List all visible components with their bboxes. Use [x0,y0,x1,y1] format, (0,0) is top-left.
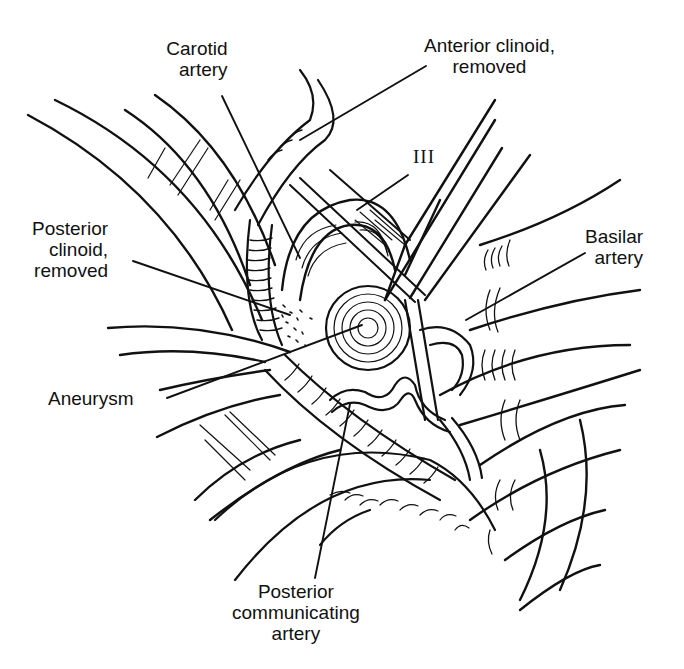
label-anterior-clinoid: Anterior clinoid, removed [424,35,555,77]
surgical-anatomy-drawing [0,0,684,669]
label-oculomotor-nerve: III [413,146,435,167]
basilar-line2: artery [585,247,643,268]
retractor-blades [385,100,530,300]
pcom-line1: Posterior [232,581,360,602]
basilar-line1: Basilar [585,226,643,247]
label-posterior-clinoid: Posterior clinoid, removed [32,218,108,281]
lower-vessel-ribbing [285,364,438,483]
anterior-clinoid-line1: Anterior clinoid, [424,35,555,56]
posterior-clinoid-stipple [282,305,312,346]
carotid-ribbing [248,130,302,331]
basilar-branches [420,327,482,480]
oculomotor-text: III [413,146,435,167]
aneurysm-dome [326,286,410,370]
brain-retraction-arcs-left [28,95,340,520]
posterior-clinoid-line2: clinoid, [32,239,108,260]
aneurysm-rings [334,294,402,362]
pcom-line3: artery [232,623,360,644]
carotid-line1: Carotid [152,38,228,59]
anterior-clinoid-line2: removed [424,56,555,77]
posterior-clinoid-line3: removed [32,260,108,281]
hatching-bottom [330,491,469,530]
posterior-clinoid-line1: Posterior [32,218,108,239]
carotid-line2: artery [152,59,228,80]
label-posterior-communicating-artery: Posterior communicating artery [232,581,360,644]
label-basilar-artery: Basilar artery [585,226,643,268]
brain-retraction-arcs-bottom [215,453,495,581]
pcom-line2: communicating [232,602,360,623]
leader-aneurysm [167,325,362,398]
label-aneurysm: Aneurysm [48,388,134,409]
leader-III [357,175,408,210]
aneurysm-text: Aneurysm [48,388,134,409]
leader-anterior-clinoid [300,66,426,140]
label-carotid-artery: Carotid artery [152,38,228,80]
lower-vessel [265,355,455,500]
leader-lines [133,66,585,578]
